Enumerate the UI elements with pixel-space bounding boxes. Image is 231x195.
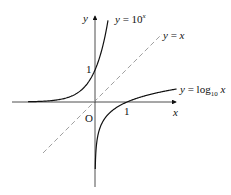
curve-exponential <box>28 20 108 101</box>
label-y-equals-x: y = x <box>163 30 185 41</box>
curve-logarithm <box>95 89 176 169</box>
x-axis-label: x <box>173 107 178 118</box>
y-axis-label: y <box>83 13 88 24</box>
label-log-curve: y = log10 x <box>180 84 225 98</box>
x-tick-1: 1 <box>124 106 130 117</box>
origin-label: O <box>85 113 93 124</box>
y-tick-1: 1 <box>86 64 92 75</box>
line-y-equals-x <box>43 34 162 153</box>
label-exp-curve: y = 10x <box>115 13 146 25</box>
